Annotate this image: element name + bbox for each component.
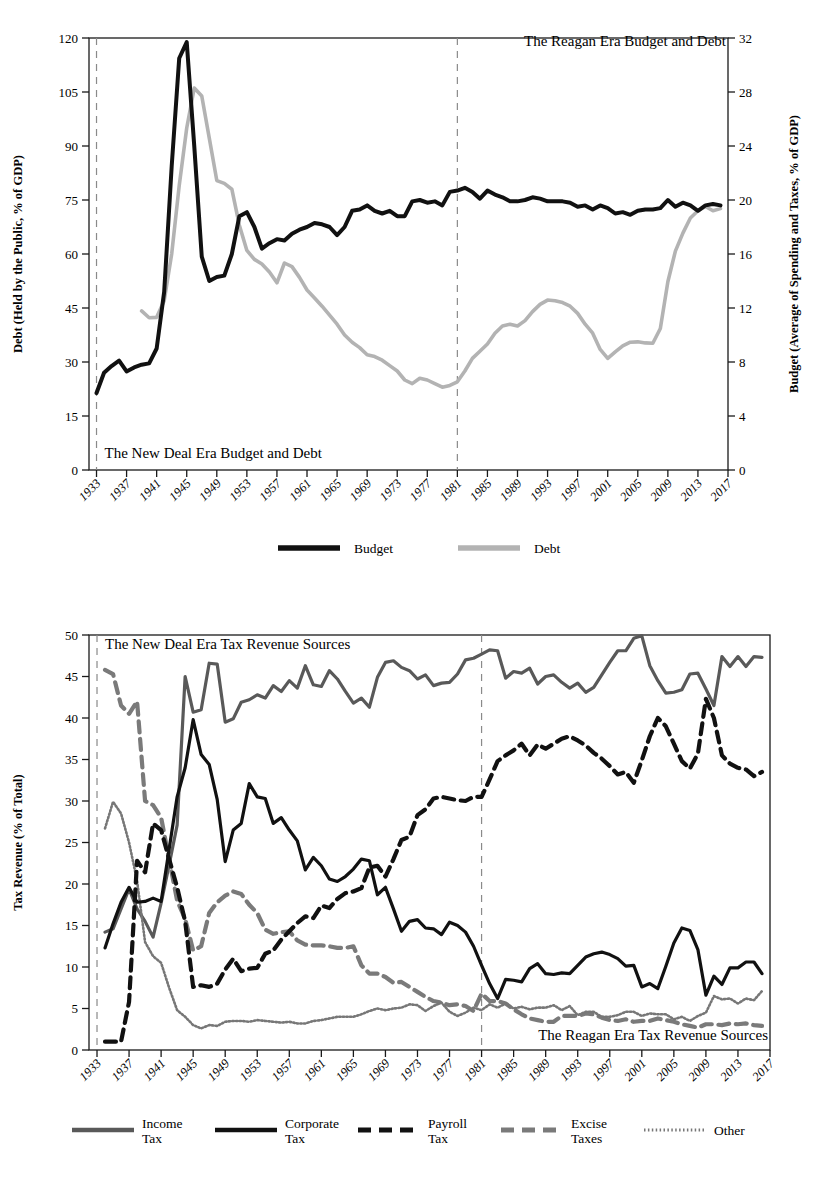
budget-and-debt-svg: 0153045607590105120048121620242832193319… bbox=[0, 0, 816, 580]
x-axis-tick-label: 1993 bbox=[527, 476, 555, 504]
x-axis-tick-label: 1933 bbox=[76, 476, 104, 504]
series-line-payroll-tax bbox=[105, 699, 762, 1042]
x-axis-tick-label: 1937 bbox=[109, 1056, 137, 1084]
x-axis-tick-label: 1977 bbox=[429, 1056, 457, 1084]
y-axis-tick-label: 15 bbox=[65, 918, 78, 933]
x-axis-tick-label: 1941 bbox=[136, 476, 164, 504]
y2-axis-tick-label: 4 bbox=[739, 409, 746, 424]
x-axis-tick-label: 2017 bbox=[750, 1056, 778, 1084]
y2-axis-tick-label: 20 bbox=[739, 193, 752, 208]
x-axis-tick-label: 2017 bbox=[708, 476, 736, 504]
y-axis-tick-label: 60 bbox=[65, 247, 78, 262]
budget-and-debt-plot: 0153045607590105120048121620242832193319… bbox=[0, 0, 816, 580]
x-axis-tick-label: 1941 bbox=[141, 1056, 169, 1084]
x-axis-tick-label: 1989 bbox=[497, 476, 525, 504]
series-line-other bbox=[105, 802, 762, 1029]
legend-label-payroll: Payroll bbox=[428, 1116, 467, 1131]
series-line-corporate-tax bbox=[105, 720, 762, 999]
x-axis-tick-label: 1993 bbox=[557, 1056, 585, 1084]
x-axis-tick-label: 1933 bbox=[77, 1056, 105, 1084]
legend-label-income: Income bbox=[142, 1116, 182, 1131]
y-axis-tick-label: 45 bbox=[65, 301, 78, 316]
x-axis-tick-label: 2013 bbox=[717, 1056, 745, 1084]
legend-label-payroll-line2: Tax bbox=[428, 1131, 448, 1146]
y2-axis-tick-label: 8 bbox=[739, 355, 746, 370]
x-axis-tick-label: 1989 bbox=[525, 1056, 553, 1084]
y-axis-tick-label: 20 bbox=[65, 877, 78, 892]
x-axis-tick-label: 1961 bbox=[287, 476, 315, 504]
y-axis-tick-label: 10 bbox=[65, 960, 78, 975]
legend-label-excise: Excise bbox=[571, 1116, 607, 1131]
x-axis-tick-label: 1949 bbox=[196, 476, 224, 504]
legend-label-corporate-line2: Tax bbox=[285, 1131, 305, 1146]
x-axis-tick-label: 1957 bbox=[256, 476, 284, 504]
y-axis-tick-label: 30 bbox=[65, 355, 78, 370]
y-axis-tick-label: 25 bbox=[65, 835, 78, 850]
x-axis-tick-label: 2009 bbox=[685, 1056, 713, 1084]
reagan-era-annotation: The Reagan Era Tax Revenue Sources bbox=[538, 1027, 768, 1043]
y2-axis-tick-label: 16 bbox=[739, 247, 753, 262]
legend-label-corporate: Corporate bbox=[285, 1116, 339, 1131]
y2-axis-tick-label: 32 bbox=[739, 31, 752, 46]
new-deal-era-annotation: The New Deal Era Budget and Debt bbox=[105, 445, 323, 461]
x-axis-tick-label: 1985 bbox=[467, 476, 495, 504]
series-line-debt bbox=[142, 88, 721, 387]
series-line-income-tax bbox=[105, 636, 762, 937]
x-axis-tick-label: 1977 bbox=[407, 476, 435, 504]
x-axis-tick-label: 1997 bbox=[557, 476, 585, 504]
y-axis-title: Tax Revenue (% of Total) bbox=[11, 774, 25, 910]
x-axis-tick-label: 1945 bbox=[173, 1056, 201, 1084]
x-axis-tick-label: 2001 bbox=[587, 476, 615, 504]
y-axis-tick-label: 0 bbox=[72, 1043, 79, 1058]
legend-label-income-line2: Tax bbox=[142, 1131, 162, 1146]
y-axis-tick-label: 35 bbox=[65, 752, 78, 767]
y2-axis-tick-label: 28 bbox=[739, 85, 752, 100]
plot-frame bbox=[89, 38, 728, 470]
tax-revenue-sources-figure: 0510152025303540455019331937194119451949… bbox=[0, 600, 816, 1198]
y-axis-tick-label: 105 bbox=[59, 85, 79, 100]
x-axis-tick-label: 1997 bbox=[589, 1056, 617, 1084]
y-axis-tick-label: 45 bbox=[65, 669, 78, 684]
y-axis-tick-label: 5 bbox=[72, 1001, 79, 1016]
x-axis-tick-label: 1981 bbox=[437, 476, 465, 504]
x-axis-tick-label: 1949 bbox=[205, 1056, 233, 1084]
y-axis-title: Debt (Held by the Public, % of GDP) bbox=[11, 155, 25, 353]
tax-revenue-sources-svg: 0510152025303540455019331937194119451949… bbox=[0, 600, 816, 1198]
x-axis-tick-label: 1965 bbox=[317, 476, 345, 504]
y-axis-tick-label: 75 bbox=[65, 193, 78, 208]
new-deal-era-annotation: The New Deal Era Tax Revenue Sources bbox=[105, 636, 350, 652]
y2-axis-tick-label: 12 bbox=[739, 301, 752, 316]
x-axis-tick-label: 1985 bbox=[493, 1056, 521, 1084]
y-axis-tick-label: 30 bbox=[65, 794, 78, 809]
y-axis-tick-label: 50 bbox=[65, 628, 78, 643]
x-axis-tick-label: 2009 bbox=[647, 476, 675, 504]
y2-axis-title: Budget (Average of Spending and Taxes, %… bbox=[787, 115, 801, 393]
legend-label-excise-line2: Taxes bbox=[571, 1131, 602, 1146]
x-axis-tick-label: 2005 bbox=[653, 1056, 681, 1084]
budget-and-debt-figure: 0153045607590105120048121620242832193319… bbox=[0, 0, 816, 580]
y-axis-tick-label: 0 bbox=[72, 463, 79, 478]
y-axis-tick-label: 15 bbox=[65, 409, 78, 424]
y-axis-tick-label: 90 bbox=[65, 139, 78, 154]
x-axis-tick-label: 1969 bbox=[347, 476, 375, 504]
y2-axis-tick-label: 24 bbox=[739, 139, 753, 154]
series-line-budget bbox=[97, 42, 721, 393]
x-axis-tick-label: 2001 bbox=[621, 1056, 649, 1084]
legend-label-budget: Budget bbox=[354, 541, 393, 556]
legend-label-debt: Debt bbox=[534, 541, 560, 556]
x-axis-tick-label: 1957 bbox=[269, 1056, 297, 1084]
x-axis-tick-label: 1937 bbox=[106, 476, 134, 504]
x-axis-tick-label: 2013 bbox=[677, 476, 705, 504]
tax-revenue-sources-plot: 0510152025303540455019331937194119451949… bbox=[0, 600, 816, 1198]
x-axis-tick-label: 1973 bbox=[377, 476, 405, 504]
x-axis-tick-label: 1953 bbox=[226, 476, 254, 504]
y-axis-tick-label: 120 bbox=[59, 31, 79, 46]
reagan-era-annotation: The Reagan Era Budget and Debt bbox=[524, 33, 727, 49]
x-axis-tick-label: 1961 bbox=[301, 1056, 329, 1084]
x-axis-tick-label: 1973 bbox=[397, 1056, 425, 1084]
x-axis-tick-label: 1981 bbox=[461, 1056, 489, 1084]
x-axis-tick-label: 1965 bbox=[333, 1056, 361, 1084]
x-axis-tick-label: 2005 bbox=[617, 476, 645, 504]
x-axis-tick-label: 1945 bbox=[166, 476, 194, 504]
y-axis-tick-label: 40 bbox=[65, 711, 78, 726]
